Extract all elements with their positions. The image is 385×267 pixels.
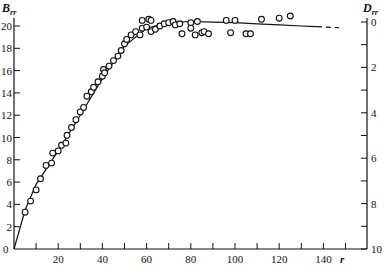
y2-tick-label: 8 [371,198,377,210]
y-tick-label: 14 [1,87,13,99]
data-point [102,70,108,76]
data-point [192,32,198,38]
fitted-curve [14,22,339,250]
data-point [177,21,183,27]
data-point [73,117,79,123]
y2-tick-label: 4 [371,107,377,119]
data-point [38,176,44,182]
data-point [148,18,154,24]
data-point [276,15,282,21]
extrapolation-line [317,27,339,28]
data-point [139,18,145,24]
y2-tick-label: 2 [371,61,377,73]
y-tick-label: 2 [7,221,13,233]
data-point [137,32,143,38]
data-point [248,31,254,37]
data-point [228,30,234,36]
data-point [69,125,75,131]
left-axis-title: Brr [1,1,17,17]
data-point [179,31,185,37]
data-point [188,25,194,31]
data-point [81,105,87,111]
data-point [223,18,229,24]
y2-tick-label: 6 [371,152,377,164]
y-tick-label: 20 [1,20,13,32]
x-tick-label: 100 [227,253,244,265]
data-point [188,20,194,26]
y-tick-label: 16 [1,65,13,77]
data-point [118,48,124,54]
chart: 2040608010012014002468101214161820024681… [0,0,385,267]
data-point [22,209,28,215]
data-point [232,18,238,24]
data-point [33,187,39,193]
tick-labels: 2040608010012014002468101214161820024681… [1,16,383,265]
data-point [28,198,34,204]
y-tick-label: 12 [1,109,12,121]
x-tick-label: 60 [141,253,153,265]
y-tick-label: 6 [7,176,13,188]
data-point [55,148,61,154]
y-tick-label: 8 [7,154,13,166]
right-axis-title: Drr [362,1,379,17]
data-point [195,19,201,25]
origin-label: 0 [3,243,9,255]
data-point [49,160,55,166]
data-point [115,53,121,59]
data-points [22,13,293,215]
x-tick-label: 20 [53,253,65,265]
x-axis-title: r [340,253,345,265]
data-point [64,132,70,138]
x-tick-label: 80 [185,253,197,265]
data-point [95,79,101,85]
x-tick-label: 140 [315,253,332,265]
data-point [50,150,56,156]
data-point [259,16,265,22]
y2-tick-label: 10 [371,243,383,255]
data-point [206,31,212,37]
y-tick-label: 4 [7,198,13,210]
data-point [106,63,112,69]
data-point [63,140,69,146]
data-point [91,84,97,90]
y2-tick-label: 0 [371,16,377,28]
fit-line [14,22,317,250]
y-tick-label: 18 [1,42,13,54]
data-point [287,13,293,19]
x-tick-label: 40 [97,253,109,265]
x-tick-label: 120 [271,253,288,265]
y-tick-label: 10 [1,132,13,144]
data-point [43,163,49,169]
